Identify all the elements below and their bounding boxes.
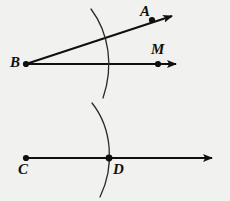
arc-lower [92, 103, 109, 197]
point-label-m: M [151, 42, 164, 57]
geometry-figure: A B M C D [0, 0, 230, 201]
point-m-dot [155, 61, 161, 67]
point-label-d: D [113, 162, 124, 177]
point-d-dot [106, 155, 113, 162]
point-label-b: B [10, 55, 20, 70]
point-label-a: A [140, 4, 150, 19]
arc-upper [91, 9, 109, 98]
point-label-c: C [18, 162, 28, 177]
point-b-dot [23, 61, 29, 67]
